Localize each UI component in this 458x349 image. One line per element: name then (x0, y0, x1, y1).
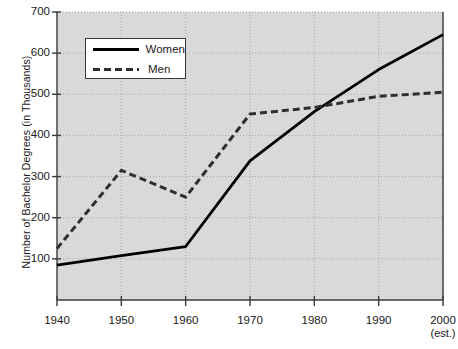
x-tick-label: 1990 (344, 314, 414, 327)
bachelor-degrees-line-chart: Number of Bachelor Degrees (in Thousands… (0, 0, 458, 349)
plot-area (0, 0, 458, 349)
y-tick-label: 700 (10, 6, 50, 18)
y-tick-label: 400 (10, 129, 50, 141)
x-tick-label: 2000(est.) (408, 314, 458, 340)
legend-swatch-solid-line-icon (93, 44, 137, 54)
legend-label-women: Women (146, 43, 185, 55)
y-tick-label: 600 (10, 47, 50, 59)
legend-item-men: Men (86, 59, 185, 79)
legend-swatch-dashed-line-icon (93, 64, 139, 74)
y-tick-label: 200 (10, 212, 50, 224)
x-tick-label: 1940 (22, 314, 92, 327)
y-tick-label: 500 (10, 88, 50, 100)
y-tick-label: 100 (10, 253, 50, 265)
x-tick-sublabel: (est.) (408, 327, 458, 340)
legend-label-men: Men (148, 63, 170, 75)
legend-item-women: Women (86, 39, 185, 59)
x-tick-label: 1950 (86, 314, 156, 327)
y-tick-label: 300 (10, 171, 50, 183)
legend: Women Men (85, 38, 186, 79)
x-tick-label: 1970 (215, 314, 285, 327)
x-tick-label: 1960 (151, 314, 221, 327)
x-tick-label: 1980 (279, 314, 349, 327)
